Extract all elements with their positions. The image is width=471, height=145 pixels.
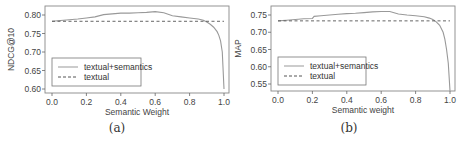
y-tick-label: 0.80 [24,10,41,20]
x-tick-label: 1.0 [218,97,230,107]
x-tick-label: 0.0 [272,95,284,105]
y-tick-label: 0.75 [250,10,267,20]
x-tick-label: 0.8 [184,97,196,107]
figure-caption: (a) [109,121,126,135]
y-tick-label: 0.60 [24,84,41,94]
chart-panel-b: 0.550.600.650.700.750.00.20.40.60.81.0Se… [233,6,456,135]
legend-label: textual [84,72,109,82]
y-tick-label: 0.65 [24,66,41,76]
x-tick-label: 0.6 [149,97,161,107]
x-tick-label: 0.6 [375,95,387,105]
legend: textual+semanticstextual [52,58,152,86]
x-tick-label: 0.2 [80,97,92,107]
x-tick-label: 0.8 [410,95,422,105]
legend-label: textual [310,71,335,81]
figure-caption: (b) [340,121,357,135]
y-tick-label: 0.55 [250,79,267,89]
figure: 0.600.650.700.750.800.00.20.40.60.81.0Se… [0,0,471,145]
x-tick-label: 0.0 [46,97,58,107]
x-axis-label: Semantic weight [332,105,395,115]
chart-panel-a: 0.600.650.700.750.800.00.20.40.60.81.0Se… [6,6,230,135]
legend-label: textual+semantics [84,62,152,72]
y-tick-label: 0.70 [24,47,41,57]
y-tick-label: 0.65 [250,45,267,55]
x-tick-label: 0.2 [306,95,318,105]
y-tick-label: 0.70 [250,27,267,37]
x-axis-label: Semantic Weight [105,107,170,117]
legend-label: textual+semantics [310,61,378,71]
x-tick-label: 0.4 [115,97,127,107]
y-axis-label: NDCG@10 [6,28,16,71]
y-axis-label: MAP [233,39,243,58]
y-tick-label: 0.75 [24,29,41,39]
y-tick-label: 0.60 [250,62,267,72]
x-tick-label: 1.0 [444,95,456,105]
legend: textual+semanticstextual [278,57,378,85]
x-tick-label: 0.4 [341,95,353,105]
